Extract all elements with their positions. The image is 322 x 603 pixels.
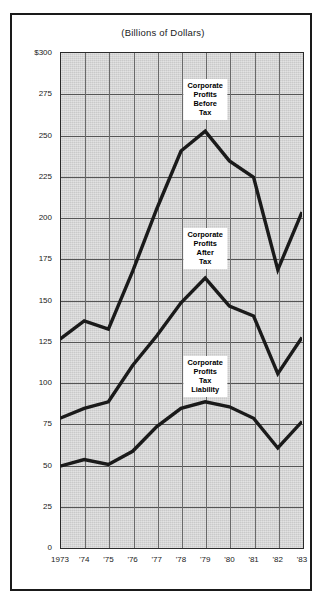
y-tick-label: 0 xyxy=(48,543,52,552)
y-axis-labels: $3002752502252001751501251007550250 xyxy=(12,52,56,547)
x-tick-label: '83 xyxy=(297,555,307,564)
x-tick-label: '79 xyxy=(200,555,210,564)
x-tick-label: 1973 xyxy=(51,555,69,564)
series-line xyxy=(60,131,302,339)
series-line xyxy=(60,402,302,466)
x-tick-label: '81 xyxy=(248,555,258,564)
series-lines xyxy=(60,52,302,547)
series-line xyxy=(60,278,302,418)
x-tick-label: '80 xyxy=(224,555,234,564)
x-tick-label: '76 xyxy=(127,555,137,564)
y-tick-label: 75 xyxy=(43,419,52,428)
chart-figure: (Billions of Dollars) $30027525022520017… xyxy=(10,13,312,591)
y-tick-label: 25 xyxy=(43,501,52,510)
y-tick-label: 150 xyxy=(39,295,52,304)
series-label: Corporate Profits Tax Liability xyxy=(184,356,227,397)
y-tick-label: 275 xyxy=(39,89,52,98)
x-tick-label: '78 xyxy=(176,555,186,564)
y-tick-label: 175 xyxy=(39,254,52,263)
y-tick-label: 125 xyxy=(39,336,52,345)
y-tick-label: 225 xyxy=(39,171,52,180)
x-axis-labels: 1973'74'75'76'77'78'79'80'81'82'83 xyxy=(60,555,302,575)
series-label: Corporate Profits After Tax xyxy=(184,228,227,269)
x-tick-label: '82 xyxy=(273,555,283,564)
chart-title: (Billions of Dollars) xyxy=(12,27,314,38)
x-tick-label: '75 xyxy=(103,555,113,564)
y-tick-label: $300 xyxy=(34,48,52,57)
x-tick-label: '74 xyxy=(79,555,89,564)
y-tick-label: 250 xyxy=(39,130,52,139)
y-tick-label: 200 xyxy=(39,213,52,222)
y-tick-label: 100 xyxy=(39,378,52,387)
y-tick-label: 50 xyxy=(43,460,52,469)
series-label: Corporate Profits Before Tax xyxy=(184,79,227,120)
x-tick-label: '77 xyxy=(152,555,162,564)
